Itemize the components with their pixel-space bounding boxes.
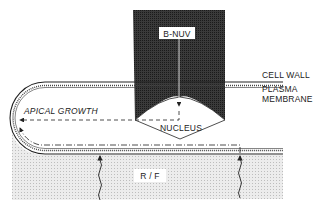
beam-label: B-NUV [163,29,191,39]
membrane-label: MEMBRANE [262,94,313,104]
dash-dot-path [20,128,240,153]
region-label: R / F [140,171,159,181]
plasma-label: PLASMA [262,84,298,94]
nucleus-label: NUCLEUS [160,123,202,133]
substrate-region [12,130,283,200]
apical-growth-label: APICAL GROWTH [23,106,98,116]
hypha-diagram: B-NUV CELL WALL PLASMA MEMBRANE APICAL G… [0,0,322,212]
cell-wall-label: CELL WALL [262,70,310,80]
